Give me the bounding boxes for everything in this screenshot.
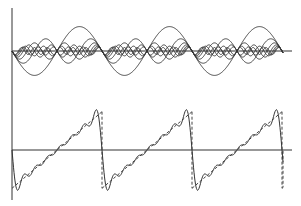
chart-canvas — [0, 0, 301, 206]
fourier-sawtooth-figure — [0, 0, 301, 206]
